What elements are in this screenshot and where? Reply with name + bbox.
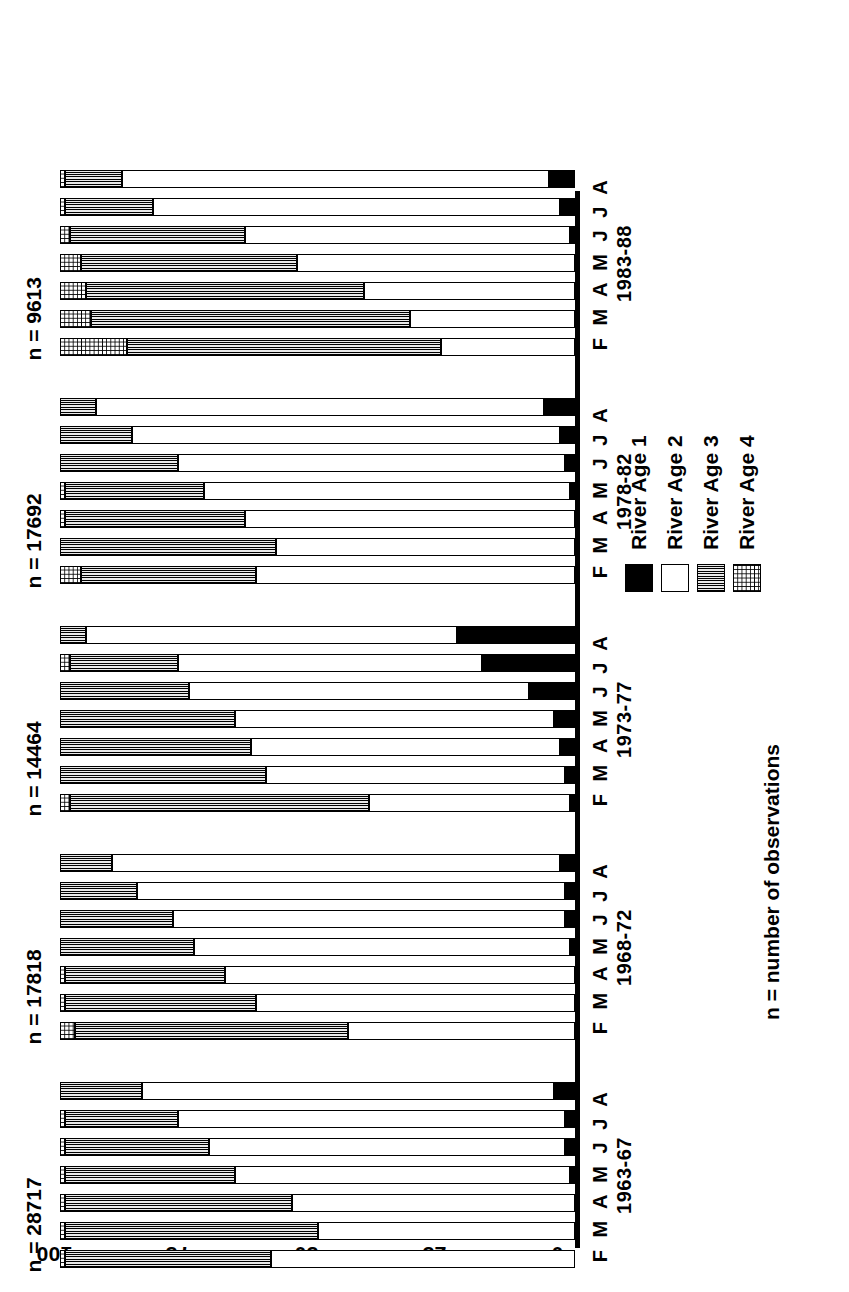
bar-segment-age3 [75, 1023, 348, 1041]
bar-segment-age1 [570, 483, 575, 501]
bar-segment-age1 [565, 767, 575, 785]
bar-segment-age3 [65, 1195, 292, 1213]
bar-segment-age1 [544, 399, 575, 417]
bar-segment-age4 [60, 311, 91, 329]
bar-segment-age3 [60, 399, 96, 417]
group-n-label: n = 14464 [22, 721, 46, 816]
bar-group [60, 627, 575, 813]
bar-segment-age1 [560, 199, 575, 217]
footnote: n = number of observations [760, 744, 784, 1020]
bar-segment-age2 [441, 339, 575, 357]
bar-segment-age2 [245, 511, 575, 529]
bar-segment-age3 [60, 1083, 142, 1101]
bar-segment-age2 [194, 939, 570, 957]
bar-segment-age2 [364, 283, 575, 301]
bar-segment-age1 [570, 227, 575, 245]
bar-segment-age3 [70, 795, 369, 813]
bar-group [60, 399, 575, 585]
bar-segment-age2 [173, 911, 564, 929]
bar-segment-age3 [81, 567, 256, 585]
group-label: F M A M J J A1963-67 [589, 1073, 636, 1279]
legend-item[interactable]: River Age 3 [697, 435, 725, 592]
legend-item[interactable]: River Age 2 [661, 435, 689, 592]
legend-swatch-age2 [661, 564, 689, 592]
bar-segment-age1 [482, 655, 575, 673]
group-period: 1983-88 [613, 161, 637, 367]
bar-segment-age2 [137, 883, 564, 901]
bar-segment-age4 [60, 967, 65, 985]
bar-segment-age4 [60, 283, 86, 301]
legend-item[interactable]: River Age 4 [733, 435, 761, 592]
bar-segment-age1 [565, 911, 575, 929]
bar-segment-age2 [96, 399, 544, 417]
bar-segment-age3 [65, 995, 256, 1013]
group-n-label: n = 17692 [22, 493, 46, 588]
bar-segment-age1 [565, 883, 575, 901]
bar-segment-age3 [60, 911, 173, 929]
bar-group [60, 855, 575, 1041]
bar-segment-age4 [60, 1023, 75, 1041]
bar-segment-age4 [60, 483, 65, 501]
group-label: F M A M J J A1968-72 [589, 845, 636, 1051]
group-label: F M A M J J A1978-82 [589, 389, 636, 595]
group-months: F M A M J J A [589, 1073, 613, 1279]
bar-segment-age2 [318, 1223, 576, 1241]
bar-segment-age2 [112, 855, 560, 873]
legend-label: River Age 2 [663, 435, 687, 550]
legend-label: River Age 3 [699, 435, 723, 550]
bar-segment-age1 [565, 1111, 575, 1129]
bar-segment-age2 [292, 1195, 575, 1213]
bar-segment-age1 [570, 939, 575, 957]
bar-segment-age2 [297, 255, 575, 273]
bar-segment-age3 [86, 283, 364, 301]
group-label: F M A M J J A1983-88 [589, 161, 636, 367]
bar-segment-age2 [225, 967, 575, 985]
legend-swatch-age3 [697, 564, 725, 592]
bar-segment-age1 [570, 1167, 575, 1185]
plot-area: 0255075100 [60, 191, 580, 1248]
bar-segment-age2 [276, 539, 575, 557]
bar-segment-age4 [60, 339, 127, 357]
group-n-label: n = 28717 [22, 1177, 46, 1272]
bar-segment-age3 [60, 683, 189, 701]
bar-segment-age2 [122, 171, 549, 189]
bar-segment-age4 [60, 1111, 65, 1129]
bar-segment-age2 [256, 995, 575, 1013]
bar-segment-age3 [65, 1251, 271, 1269]
group-label: F M A M J J A1973-77 [589, 617, 636, 823]
bar-segment-age2 [189, 683, 529, 701]
bar-segment-age2 [256, 567, 575, 585]
bar-group [60, 171, 575, 357]
bar-segment-age3 [91, 311, 410, 329]
legend: River Age 1River Age 2River Age 3River A… [625, 435, 769, 592]
bar-segment-age3 [60, 455, 178, 473]
bar-segment-age3 [65, 1167, 235, 1185]
bar-segment-age3 [70, 227, 245, 245]
legend-label: River Age 4 [735, 435, 759, 550]
bar-segment-age4 [60, 1251, 65, 1269]
group-months: F M A M J J A [589, 845, 613, 1051]
bar-segment-age4 [60, 199, 65, 217]
bar-segment-age2 [142, 1083, 554, 1101]
bar-segment-age2 [209, 1139, 564, 1157]
group-months: F M A M J J A [589, 389, 613, 595]
bar-segment-age1 [529, 683, 575, 701]
bar-segment-age4 [60, 567, 81, 585]
bar-segment-age2 [235, 1167, 570, 1185]
bar-segment-age1 [554, 1083, 575, 1101]
bar-segment-age2 [369, 795, 570, 813]
bar-segment-age2 [153, 199, 560, 217]
bar-segment-age3 [60, 739, 251, 757]
bar-segment-age3 [65, 1139, 209, 1157]
group-n-label: n = 17818 [22, 949, 46, 1044]
bar-segment-age1 [549, 171, 575, 189]
bar-segment-age3 [70, 655, 178, 673]
bar-segment-age3 [65, 1223, 317, 1241]
bar-group [60, 1083, 575, 1269]
bar-segment-age4 [60, 227, 70, 245]
bar-segment-age2 [266, 767, 565, 785]
group-period: 1968-72 [613, 845, 637, 1051]
bar-segment-age2 [271, 1251, 575, 1269]
bar-segment-age3 [65, 171, 122, 189]
group-period: 1963-67 [613, 1073, 637, 1279]
